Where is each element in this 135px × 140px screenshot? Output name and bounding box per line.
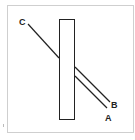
central-rectangle — [60, 20, 75, 120]
corner-mark — [3, 124, 4, 127]
label-c: C — [19, 17, 26, 27]
line-a — [75, 76, 107, 108]
label-a: A — [105, 113, 112, 123]
label-b: B — [111, 100, 118, 110]
line-c — [28, 24, 59, 58]
diagram-canvas: C B A — [0, 0, 135, 140]
line-b — [75, 67, 110, 102]
